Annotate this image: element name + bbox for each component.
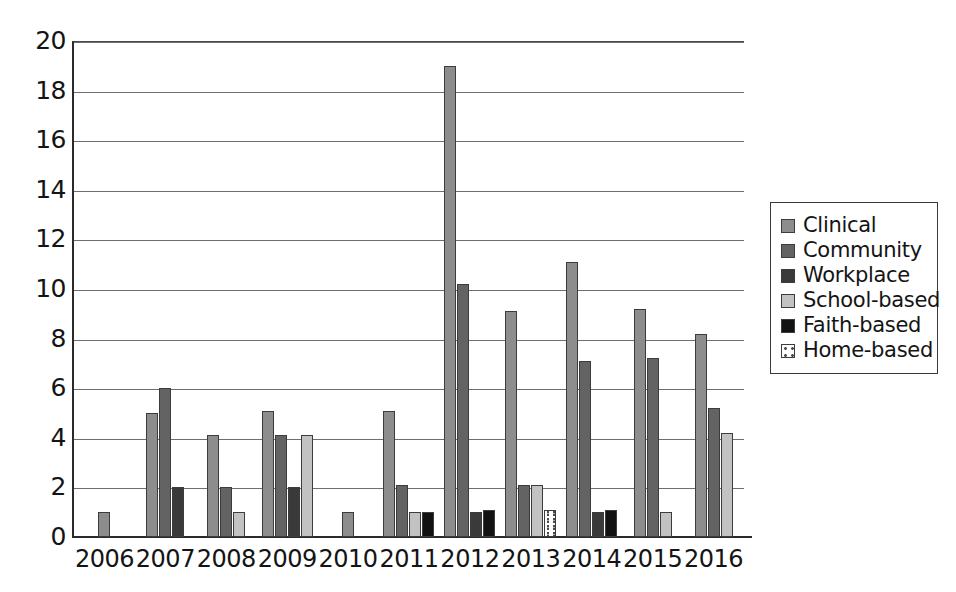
bar-group	[257, 41, 318, 537]
community-swatch-icon	[781, 244, 795, 258]
bar-chart: 20181614121086420 2006200720082009201020…	[0, 0, 956, 592]
x-tick-label: 2015	[623, 545, 682, 573]
legend-item-clinical: Clinical	[781, 213, 929, 238]
legend-label: Faith-based	[803, 314, 921, 337]
y-tick-label: 16	[18, 127, 66, 152]
legend-item-faith: Faith-based	[781, 313, 929, 338]
home-swatch-icon	[781, 344, 795, 358]
legend-label: Community	[803, 239, 922, 262]
bar-group	[500, 41, 561, 537]
y-tick-label: 12	[18, 226, 66, 251]
bar-group	[622, 41, 683, 537]
bar-clinical-2009	[262, 411, 274, 537]
x-tick-label: 2009	[258, 545, 317, 573]
bar-community-2016	[708, 408, 720, 537]
bars-layer	[74, 41, 744, 537]
bar-group	[135, 41, 196, 537]
legend-item-home: Home-based	[781, 338, 929, 363]
y-tick-label: 18	[18, 78, 66, 103]
y-tick-label: 8	[18, 326, 66, 351]
bar-group	[379, 41, 440, 537]
x-tick-label: 2016	[684, 545, 743, 573]
y-tick-label: 4	[18, 425, 66, 450]
x-tick-label: 2013	[501, 545, 560, 573]
bar-community-2011	[396, 485, 408, 537]
bar-school-based-2008	[233, 512, 245, 537]
bar-group	[683, 41, 744, 537]
legend-label: Home-based	[803, 339, 933, 362]
x-tick-label: 2010	[319, 545, 378, 573]
x-tick-label: 2012	[440, 545, 499, 573]
bar-group	[561, 41, 622, 537]
bar-faith-based-2014	[605, 510, 617, 537]
bar-clinical-2008	[207, 435, 219, 537]
bar-clinical-2013	[505, 311, 517, 537]
legend-label: School-based	[803, 289, 940, 312]
bar-community-2015	[647, 358, 659, 537]
bar-community-2009	[275, 435, 287, 537]
bar-workplace-2007	[172, 487, 184, 537]
bar-school-based-2011	[409, 512, 421, 537]
bar-workplace-2009	[288, 487, 300, 537]
bar-school-based-2016	[721, 433, 733, 537]
y-tick-label: 14	[18, 177, 66, 202]
x-axis: 2006200720082009201020112012201320142015…	[74, 545, 744, 579]
legend-item-school: School-based	[781, 288, 929, 313]
x-tick-label: 2007	[136, 545, 195, 573]
y-tick-label: 10	[18, 276, 66, 301]
bar-clinical-2014	[566, 262, 578, 537]
x-tick-label: 2008	[197, 545, 256, 573]
bar-clinical-2015	[634, 309, 646, 537]
bar-community-2008	[220, 487, 232, 537]
bar-clinical-2007	[146, 413, 158, 537]
bar-community-2012	[457, 284, 469, 537]
school-swatch-icon	[781, 294, 795, 308]
legend-item-community: Community	[781, 238, 929, 263]
legend-label: Workplace	[803, 264, 910, 287]
bar-group	[196, 41, 257, 537]
bar-faith-based-2012	[483, 510, 495, 537]
bar-clinical-2010	[342, 512, 354, 537]
bar-school-based-2013	[531, 485, 543, 537]
bar-group	[318, 41, 379, 537]
bar-home-based-2013	[544, 510, 556, 537]
x-tick-label: 2011	[379, 545, 438, 573]
x-tick-label: 2014	[562, 545, 621, 573]
legend-item-workplace: Workplace	[781, 263, 929, 288]
chart-legend: ClinicalCommunityWorkplaceSchool-basedFa…	[770, 202, 938, 374]
bar-group	[74, 41, 135, 537]
workplace-swatch-icon	[781, 269, 795, 283]
legend-label: Clinical	[803, 214, 876, 237]
clinical-swatch-icon	[781, 219, 795, 233]
bar-clinical-2011	[383, 411, 395, 537]
y-tick-label: 0	[18, 524, 66, 549]
bar-clinical-2016	[695, 334, 707, 537]
y-tick-label: 2	[18, 474, 66, 499]
bar-community-2013	[518, 485, 530, 537]
y-tick-label: 20	[18, 28, 66, 53]
y-tick-label: 6	[18, 375, 66, 400]
bar-clinical-2012	[444, 66, 456, 537]
bar-workplace-2014	[592, 512, 604, 537]
bar-community-2007	[159, 388, 171, 537]
bar-school-based-2009	[301, 435, 313, 537]
bar-clinical-2006	[98, 512, 110, 537]
bar-community-2014	[579, 361, 591, 537]
y-axis: 20181614121086420	[8, 0, 66, 592]
bar-school-based-2015	[660, 512, 672, 537]
bar-group	[439, 41, 500, 537]
bar-faith-based-2011	[422, 512, 434, 537]
bar-workplace-2012	[470, 512, 482, 537]
x-tick-label: 2006	[75, 545, 134, 573]
faith-swatch-icon	[781, 319, 795, 333]
